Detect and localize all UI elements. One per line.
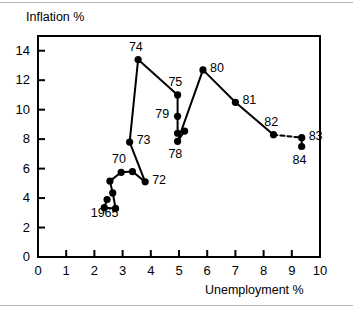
x-tick-label: 4	[141, 263, 161, 278]
point-label-74: 74	[129, 40, 143, 54]
x-tick-label: 10	[310, 263, 330, 278]
y-tick-label: 12	[8, 72, 30, 87]
x-tick-label: 1	[56, 263, 76, 278]
y-tick-label: 10	[8, 102, 30, 117]
y-tick-label: 2	[8, 220, 30, 235]
x-tick-label: 6	[197, 263, 217, 278]
x-tick-label: 5	[169, 263, 189, 278]
x-tick-label: 2	[84, 263, 104, 278]
y-tick-label: 14	[8, 43, 30, 58]
y-tick-label: 4	[8, 190, 30, 205]
point-label-79: 79	[155, 107, 169, 121]
point-label-1965: 1965	[91, 206, 119, 220]
phillips-curve-figure: Inflation % Unemployment % 0246810121401…	[0, 0, 353, 321]
y-tick-label: 0	[8, 249, 30, 264]
y-tick-label: 8	[8, 131, 30, 146]
point-label-70: 70	[112, 152, 126, 166]
axis-ticks	[38, 51, 292, 257]
point-label-80: 80	[210, 61, 224, 75]
point-label-84: 84	[292, 153, 306, 167]
point-label-83: 83	[309, 129, 323, 143]
point-label-78: 78	[168, 147, 182, 161]
point-label-73: 73	[137, 133, 151, 147]
x-tick-label: 7	[225, 263, 245, 278]
x-tick-label: 9	[282, 263, 302, 278]
point-label-72: 72	[152, 173, 166, 187]
x-tick-label: 0	[28, 263, 48, 278]
point-label-81: 81	[242, 93, 256, 107]
point-label-82: 82	[264, 115, 278, 129]
point-label-75: 75	[168, 75, 182, 89]
x-tick-label: 3	[113, 263, 133, 278]
y-tick-label: 6	[8, 161, 30, 176]
x-tick-label: 8	[254, 263, 274, 278]
